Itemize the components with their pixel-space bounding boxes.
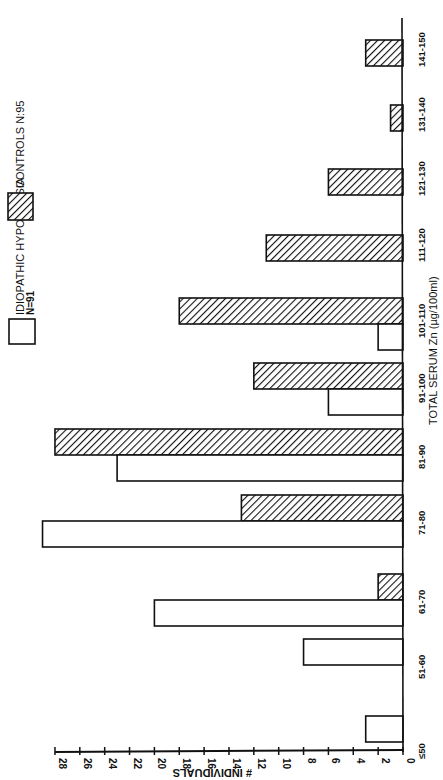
bar-controls [55,429,403,455]
category-label: 51-60 [416,655,427,679]
bars-group [43,40,403,742]
legend-swatch-hatched [8,193,33,220]
legend-swatch-open [9,319,35,344]
tick-label: 26 [82,758,93,770]
bar-controls [391,105,403,131]
value-axis-title: # INDIVIDUALS [173,767,252,779]
tick-label: 2 [380,758,391,764]
category-label: 61-70 [416,590,427,614]
tick-label: 28 [57,758,68,770]
category-label: 121-130 [416,161,427,196]
legend-label-open-n: N=91 [25,290,36,315]
category-label: 81-90 [416,445,427,469]
category-axis-title: TOTAL SERUM Zn (µg/100ml) [427,276,439,425]
category-label: 101-110 [416,304,427,338]
bar-controls [254,363,403,389]
category-label: ≤50 [416,743,427,759]
bar-chart: 0246810121416182022242628 ≤5051-6061-707… [0,0,443,780]
category-label: 71-80 [416,511,427,535]
bar-controls [266,235,403,261]
category-axis-line [402,18,403,752]
tick-label: 4 [355,758,366,764]
bar-hypogeusia [304,639,403,665]
category-label: 91-100 [416,373,427,403]
bar-hypogeusia [117,455,403,481]
legend-label-hatched: CONTROLS N:95 [14,101,26,188]
category-label: 131-140 [416,97,427,132]
tick-label: 20 [156,758,167,770]
tick-label: 22 [132,758,143,770]
bar-controls [378,574,403,600]
tick-label: 24 [107,758,118,770]
bar-controls [328,169,403,195]
bar-hypogeusia [43,521,403,547]
category-label: 111-120 [416,228,427,262]
bar-hypogeusia [378,324,403,350]
tick-label: 8 [306,758,317,764]
bar-hypogeusia [366,716,403,742]
tick-label: 0 [405,758,416,764]
category-label: 141-150 [416,32,427,67]
tick-label: 12 [256,758,267,770]
bar-hypogeusia [328,389,403,415]
bar-controls [179,298,403,324]
tick-label: 6 [330,758,341,764]
tick-label: 10 [281,758,292,770]
bar-hypogeusia [154,600,403,626]
category-labels: ≤5051-6061-7071-8081-9091-100101-110111-… [416,32,427,759]
bar-controls [366,40,403,66]
bar-controls [241,495,403,521]
